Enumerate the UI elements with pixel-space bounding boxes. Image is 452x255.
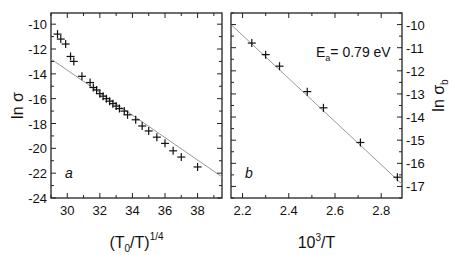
activation-energy-annotation: Ea= 0.79 eV [316,44,391,63]
data-point-marker [248,39,256,47]
y-tick-label: -24 [28,191,47,206]
y-tick-label: -10 [28,17,47,32]
data-point-marker [356,139,364,147]
plot-frame [231,13,402,198]
x-tick-label: 32 [93,203,107,218]
x-axis-title: 103/T [298,232,336,251]
panel-label: b [245,165,253,181]
y-tick-label: -14 [28,67,47,82]
panel-a: 3032343638-10-12-14-16-18-20-22-24a(T0/T… [9,13,222,254]
x-tick-label: 2.6 [326,203,344,218]
data-point-marker [194,163,202,171]
y-tick-label: -14 [406,110,425,125]
y-tick-label: -10 [406,18,425,33]
data-point-marker [262,51,270,59]
y-tick-label: -11 [406,41,424,56]
y-tick-label: -15 [406,133,425,148]
x-tick-label: 2.4 [280,203,298,218]
x-tick-label: 38 [190,203,204,218]
panel-b: 2.22.42.62.8-10-11-12-13-14-15-16-17b103… [231,13,450,251]
panel-label: a [65,165,73,181]
y-tick-label: -12 [28,42,47,57]
y-tick-label: -12 [406,64,425,79]
y-tick-label: -22 [28,166,47,181]
x-axis-title: (T0/T)1/4 [109,231,164,254]
y-tick-label: -18 [28,117,47,132]
y-tick-label: -16 [406,156,425,171]
data-point-marker [161,139,169,147]
data-point-marker [132,116,140,124]
data-point-marker [78,72,86,80]
plot-frame [51,13,222,198]
y-tick-label: -13 [406,87,425,102]
y-tick-label: -20 [28,141,47,156]
data-point-marker [62,40,70,48]
y-axis-title: ln σ [9,92,26,119]
y-tick-label: -17 [406,179,425,194]
fit-line [51,59,222,177]
x-tick-label: 2.2 [234,203,252,218]
chart-figure: 3032343638-10-12-14-16-18-20-22-24a(T0/T… [0,0,452,255]
y-axis-title: ln σb [430,79,450,112]
data-point-marker [303,88,311,96]
data-point-marker [169,147,177,155]
data-point-marker [177,153,185,161]
x-tick-label: 36 [158,203,172,218]
x-tick-label: 2.8 [372,203,390,218]
y-tick-label: -16 [28,92,47,107]
x-tick-label: 30 [60,203,74,218]
data-point-marker [276,62,284,70]
data-point-marker [319,104,327,112]
x-tick-label: 34 [125,203,139,218]
